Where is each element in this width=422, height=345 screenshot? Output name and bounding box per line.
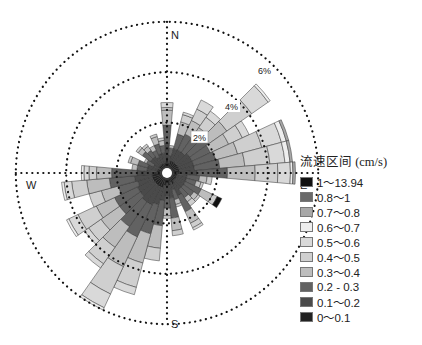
- south-label: S: [171, 318, 178, 330]
- rose-segment: [72, 180, 90, 198]
- legend-item: 0.8～1: [300, 189, 387, 204]
- rose-bars: [62, 84, 296, 310]
- west-label: W: [26, 179, 37, 191]
- svg-text:4%: 4%: [225, 102, 238, 112]
- legend-title: 流速区间 (cm/s): [300, 151, 387, 170]
- legend-item: 0.7～0.8: [300, 204, 387, 219]
- ring-label-4: 4%: [223, 100, 240, 112]
- legend: 流速区间 (cm/s) 1～13.940.8～10.7～0.80.6～0.70.…: [300, 151, 387, 324]
- legend-swatch: [300, 192, 313, 202]
- legend-label: 0.4～0.5: [317, 249, 360, 265]
- legend-label: 1～13.94: [317, 174, 363, 190]
- legend-label: 0～0.1: [317, 309, 350, 325]
- rose-segment: [171, 217, 182, 231]
- legend-swatch: [300, 252, 313, 262]
- legend-label: 0.3～0.4: [317, 264, 360, 280]
- legend-swatch: [300, 312, 313, 322]
- rose-segment: [163, 216, 171, 219]
- legend-label: 0.6～0.7: [317, 219, 360, 235]
- legend-swatch: [300, 177, 313, 187]
- legend-swatch: [300, 282, 313, 292]
- legend-item: 1～13.94: [300, 174, 387, 189]
- center-hole: [162, 168, 172, 178]
- legend-item: 0～0.1: [300, 309, 387, 324]
- legend-swatch: [300, 237, 313, 247]
- legend-item: 0.2 - 0.3: [300, 279, 387, 294]
- legend-swatch: [300, 207, 313, 217]
- legend-label: 0.7～0.8: [317, 204, 360, 220]
- legend-label: 0.5～0.6: [317, 234, 360, 250]
- svg-text:2%: 2%: [193, 133, 206, 143]
- ring-label-2: 2%: [191, 131, 208, 143]
- legend-label: 0.8～1: [317, 189, 350, 205]
- rose-segment: [293, 162, 296, 184]
- legend-swatch: [300, 297, 313, 307]
- legend-swatch: [300, 222, 313, 232]
- legend-item: 0.4～0.5: [300, 249, 387, 264]
- legend-item: 0.6～0.7: [300, 219, 387, 234]
- legend-item: 0.5～0.6: [300, 234, 387, 249]
- north-label: N: [171, 29, 179, 41]
- legend-item: 0.3～0.4: [300, 264, 387, 279]
- legend-item: 0.1～0.2: [300, 294, 387, 309]
- ring-label-6: 6%: [258, 66, 271, 76]
- legend-swatch: [300, 267, 313, 277]
- rose-segment: [206, 177, 212, 185]
- legend-label: 0.2 - 0.3: [317, 281, 359, 293]
- legend-items: 1～13.940.8～10.7～0.80.6～0.70.5～0.60.4～0.5…: [300, 174, 387, 324]
- legend-label: 0.1～0.2: [317, 294, 360, 310]
